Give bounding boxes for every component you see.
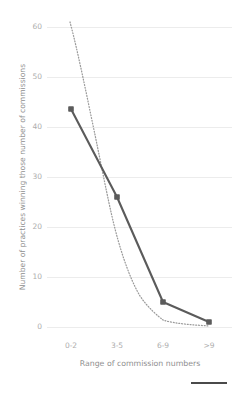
xtick-label-3-5: 3-5 — [111, 341, 123, 350]
ytick-label-40: 40 — [32, 122, 42, 131]
series-fitted-dotted-line — [70, 22, 209, 326]
x-axis-title: Range of commission numbers — [80, 359, 201, 368]
ytick-label-60: 60 — [32, 22, 42, 31]
line-chart: 60 50 40 30 20 10 0 0-2 3-5 6-9 >9 Range… — [0, 0, 240, 394]
ytick-label-10: 10 — [32, 272, 42, 281]
y-axis-tick-labels: 60 50 40 30 20 10 0 — [32, 22, 42, 331]
ytick-label-30: 30 — [32, 172, 42, 181]
ytick-label-20: 20 — [32, 222, 42, 231]
chart-container: 60 50 40 30 20 10 0 0-2 3-5 6-9 >9 Range… — [0, 0, 240, 394]
x-axis-tick-labels: 0-2 3-5 6-9 >9 — [65, 341, 215, 350]
gridlines — [47, 27, 232, 327]
series-observed-line — [71, 109, 209, 322]
series-observed-markers — [68, 106, 212, 325]
y-axis-title: Number of practices winning those number… — [18, 64, 27, 290]
ytick-label-50: 50 — [32, 72, 42, 81]
xtick-label-gt9: >9 — [203, 341, 214, 350]
ytick-label-0: 0 — [37, 322, 42, 331]
data-point-marker-gt9 — [206, 319, 212, 325]
data-point-marker-0-2 — [68, 106, 74, 112]
data-point-marker-6-9 — [160, 299, 166, 305]
xtick-label-6-9: 6-9 — [157, 341, 169, 350]
xtick-label-0-2: 0-2 — [65, 341, 77, 350]
data-point-marker-3-5 — [114, 194, 120, 200]
